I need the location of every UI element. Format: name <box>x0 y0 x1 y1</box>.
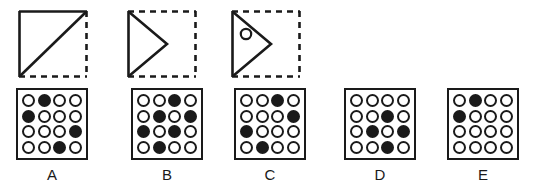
empty-circle-icon <box>381 125 394 138</box>
grid-cell <box>452 124 468 140</box>
grid-cell <box>136 93 152 109</box>
grid-cell <box>167 140 183 156</box>
filled-circle-icon <box>22 110 35 123</box>
empty-circle-icon <box>168 110 181 123</box>
empty-circle-icon <box>38 110 51 123</box>
empty-circle-icon <box>256 94 269 107</box>
grid-cell <box>68 109 84 125</box>
grid-cell <box>365 140 381 156</box>
grid-cell <box>167 124 183 140</box>
empty-circle-icon <box>240 141 253 154</box>
filled-circle-icon <box>38 94 51 107</box>
empty-circle-icon <box>22 94 35 107</box>
right-pointing-triangle <box>129 12 167 76</box>
grid-cell <box>21 140 37 156</box>
grid-cell <box>270 124 286 140</box>
empty-circle-icon <box>366 141 379 154</box>
empty-circle-icon <box>137 141 150 154</box>
empty-circle-icon <box>53 94 66 107</box>
grid-cell <box>270 109 286 125</box>
grid-cell <box>52 109 68 125</box>
grid-cell <box>152 140 168 156</box>
grid-cell <box>365 109 381 125</box>
empty-circle-icon <box>500 94 513 107</box>
empty-circle-icon <box>22 141 35 154</box>
grid-cell <box>483 140 499 156</box>
empty-circle-icon <box>500 141 513 154</box>
grid-cell <box>452 140 468 156</box>
grid-cell <box>37 140 53 156</box>
empty-circle-icon <box>381 94 394 107</box>
filled-circle-icon <box>287 110 300 123</box>
filled-circle-icon <box>240 125 253 138</box>
empty-circle-icon <box>271 110 284 123</box>
empty-circle-icon <box>184 94 197 107</box>
grid-cell <box>468 93 484 109</box>
option-c-label: C <box>234 166 306 184</box>
grid-cell <box>286 109 302 125</box>
grid-cell <box>239 140 255 156</box>
grid-cell <box>68 124 84 140</box>
option-b-label: B <box>131 166 203 184</box>
empty-circle-icon <box>38 125 51 138</box>
filled-circle-icon <box>153 141 166 154</box>
empty-circle-icon <box>137 94 150 107</box>
empty-circle-icon <box>453 94 466 107</box>
grid-cell <box>167 109 183 125</box>
empty-circle-icon <box>484 110 497 123</box>
empty-circle-icon <box>350 110 363 123</box>
grid-cell <box>396 93 412 109</box>
empty-circle-icon <box>240 110 253 123</box>
option-d-grid <box>344 88 416 160</box>
option-a[interactable]: A <box>16 88 92 184</box>
grid-cell <box>152 109 168 125</box>
grid-cell <box>468 124 484 140</box>
empty-circle-icon <box>168 141 181 154</box>
grid-cell <box>349 124 365 140</box>
empty-circle-icon <box>397 94 410 107</box>
grid-cell <box>255 124 271 140</box>
grid-cell <box>21 109 37 125</box>
empty-circle-icon <box>256 110 269 123</box>
filled-circle-icon <box>469 94 482 107</box>
empty-circle-icon <box>350 141 363 154</box>
empty-circle-icon <box>240 94 253 107</box>
grid-cell <box>286 124 302 140</box>
filled-circle-icon <box>256 141 269 154</box>
empty-circle-icon <box>469 141 482 154</box>
grid-cell <box>255 109 271 125</box>
grid-cell <box>52 140 68 156</box>
empty-circle-icon <box>350 94 363 107</box>
grid-cell <box>483 109 499 125</box>
grid-cell <box>349 140 365 156</box>
option-a-grid <box>16 88 88 160</box>
grid-cell <box>396 109 412 125</box>
option-e[interactable]: E <box>447 88 523 184</box>
grid-cell <box>37 124 53 140</box>
right-pointing-triangle <box>233 12 271 76</box>
empty-circle-icon <box>184 125 197 138</box>
sequence-shape-2 <box>127 10 197 78</box>
grid-cell <box>380 124 396 140</box>
sequence-row <box>0 0 533 88</box>
grid-cell <box>499 93 515 109</box>
empty-circle-icon <box>271 141 284 154</box>
options-row: A B C D E <box>0 88 533 192</box>
empty-circle-icon <box>287 141 300 154</box>
empty-circle-icon <box>397 110 410 123</box>
grid-cell <box>396 124 412 140</box>
grid-cell <box>396 140 412 156</box>
empty-circle-icon <box>271 125 284 138</box>
filled-circle-icon <box>69 125 82 138</box>
option-c[interactable]: C <box>234 88 310 184</box>
option-d-label: D <box>344 166 416 184</box>
grid-cell <box>239 124 255 140</box>
empty-circle-icon <box>22 125 35 138</box>
option-d[interactable]: D <box>344 88 420 184</box>
empty-circle-icon <box>53 110 66 123</box>
option-b[interactable]: B <box>131 88 207 184</box>
filled-circle-icon <box>168 94 181 107</box>
diagonal-line <box>20 12 86 76</box>
sequence-shape-1 <box>18 10 88 78</box>
filled-circle-icon <box>397 125 410 138</box>
